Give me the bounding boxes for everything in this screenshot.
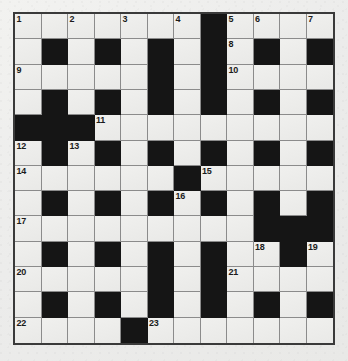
- crossword-cell[interactable]: [95, 267, 122, 292]
- crossword-cell[interactable]: [68, 65, 95, 90]
- crossword-cell[interactable]: 20: [15, 267, 42, 292]
- crossword-cell[interactable]: [68, 292, 95, 317]
- crossword-cell[interactable]: 19: [307, 242, 334, 267]
- crossword-cell[interactable]: [307, 267, 334, 292]
- crossword-cell[interactable]: [42, 216, 69, 241]
- crossword-cell[interactable]: [95, 216, 122, 241]
- crossword-cell[interactable]: 2: [68, 14, 95, 39]
- crossword-cell[interactable]: [254, 65, 281, 90]
- crossword-cell[interactable]: [121, 191, 148, 216]
- crossword-cell[interactable]: [68, 191, 95, 216]
- crossword-cell[interactable]: 4: [174, 14, 201, 39]
- crossword-cell[interactable]: 9: [15, 65, 42, 90]
- crossword-cell[interactable]: [148, 216, 175, 241]
- crossword-cell[interactable]: [280, 14, 307, 39]
- crossword-cell[interactable]: [15, 242, 42, 267]
- crossword-cell[interactable]: [174, 216, 201, 241]
- crossword-cell[interactable]: 13: [68, 141, 95, 166]
- crossword-cell[interactable]: [280, 318, 307, 343]
- crossword-cell[interactable]: 8: [227, 39, 254, 64]
- crossword-cell[interactable]: [280, 191, 307, 216]
- crossword-cell[interactable]: [68, 242, 95, 267]
- crossword-cell[interactable]: [201, 216, 228, 241]
- crossword-cell[interactable]: [307, 65, 334, 90]
- crossword-cell[interactable]: [148, 166, 175, 191]
- crossword-cell[interactable]: [280, 90, 307, 115]
- crossword-cell[interactable]: [227, 292, 254, 317]
- crossword-cell[interactable]: [227, 191, 254, 216]
- crossword-cell[interactable]: [15, 90, 42, 115]
- crossword-cell[interactable]: [174, 267, 201, 292]
- crossword-cell[interactable]: [227, 141, 254, 166]
- crossword-cell[interactable]: [68, 318, 95, 343]
- crossword-cell[interactable]: 10: [227, 65, 254, 90]
- crossword-cell[interactable]: [121, 267, 148, 292]
- crossword-cell[interactable]: [15, 292, 42, 317]
- crossword-cell[interactable]: 18: [254, 242, 281, 267]
- crossword-cell[interactable]: [254, 267, 281, 292]
- crossword-cell[interactable]: [201, 115, 228, 140]
- crossword-cell[interactable]: [254, 166, 281, 191]
- crossword-cell[interactable]: [280, 141, 307, 166]
- crossword-cell[interactable]: [174, 141, 201, 166]
- crossword-cell[interactable]: [201, 318, 228, 343]
- crossword-cell[interactable]: [121, 90, 148, 115]
- crossword-cell[interactable]: [227, 216, 254, 241]
- crossword-cell[interactable]: 5: [227, 14, 254, 39]
- crossword-cell[interactable]: [280, 166, 307, 191]
- crossword-cell[interactable]: [95, 65, 122, 90]
- crossword-cell[interactable]: [148, 115, 175, 140]
- crossword-cell[interactable]: [227, 242, 254, 267]
- crossword-cell[interactable]: [95, 14, 122, 39]
- crossword-cell[interactable]: [68, 90, 95, 115]
- crossword-cell[interactable]: [121, 39, 148, 64]
- crossword-cell[interactable]: 1: [15, 14, 42, 39]
- crossword-cell[interactable]: [280, 65, 307, 90]
- crossword-cell[interactable]: [15, 39, 42, 64]
- crossword-cell[interactable]: [42, 318, 69, 343]
- crossword-cell[interactable]: [227, 115, 254, 140]
- crossword-cell[interactable]: [121, 141, 148, 166]
- crossword-cell[interactable]: [68, 166, 95, 191]
- crossword-cell[interactable]: 15: [201, 166, 228, 191]
- crossword-cell[interactable]: [121, 216, 148, 241]
- crossword-cell[interactable]: 11: [95, 115, 122, 140]
- crossword-grid[interactable]: 1234567891011121314151617181920212223: [13, 12, 335, 345]
- crossword-cell[interactable]: [148, 14, 175, 39]
- crossword-cell[interactable]: [280, 292, 307, 317]
- crossword-cell[interactable]: [174, 318, 201, 343]
- crossword-cell[interactable]: [68, 39, 95, 64]
- crossword-cell[interactable]: 6: [254, 14, 281, 39]
- crossword-cell[interactable]: [95, 318, 122, 343]
- crossword-cell[interactable]: 16: [174, 191, 201, 216]
- crossword-cell[interactable]: 17: [15, 216, 42, 241]
- crossword-cell[interactable]: [68, 216, 95, 241]
- crossword-cell[interactable]: 3: [121, 14, 148, 39]
- crossword-cell[interactable]: [15, 191, 42, 216]
- crossword-cell[interactable]: [68, 267, 95, 292]
- crossword-cell[interactable]: 14: [15, 166, 42, 191]
- crossword-cell[interactable]: [227, 318, 254, 343]
- crossword-cell[interactable]: [121, 166, 148, 191]
- crossword-cell[interactable]: 12: [15, 141, 42, 166]
- crossword-cell[interactable]: [42, 166, 69, 191]
- crossword-cell[interactable]: 7: [307, 14, 334, 39]
- crossword-cell[interactable]: [280, 39, 307, 64]
- crossword-cell[interactable]: [121, 242, 148, 267]
- crossword-cell[interactable]: [307, 318, 334, 343]
- crossword-cell[interactable]: [174, 292, 201, 317]
- crossword-cell[interactable]: [307, 115, 334, 140]
- crossword-cell[interactable]: 22: [15, 318, 42, 343]
- crossword-cell[interactable]: [42, 65, 69, 90]
- crossword-cell[interactable]: [174, 115, 201, 140]
- crossword-cell[interactable]: [174, 242, 201, 267]
- crossword-cell[interactable]: [280, 267, 307, 292]
- crossword-cell[interactable]: [121, 65, 148, 90]
- crossword-cell[interactable]: [174, 65, 201, 90]
- crossword-cell[interactable]: [254, 318, 281, 343]
- crossword-cell[interactable]: [254, 115, 281, 140]
- crossword-cell[interactable]: [42, 267, 69, 292]
- crossword-cell[interactable]: [280, 115, 307, 140]
- crossword-cell[interactable]: [42, 14, 69, 39]
- crossword-cell[interactable]: [95, 166, 122, 191]
